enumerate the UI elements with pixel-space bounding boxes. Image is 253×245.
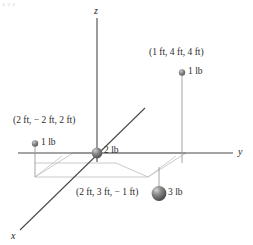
plane-helper-lines <box>35 156 176 177</box>
particle-1lb-upper-weight-label: 1 lb <box>188 67 203 77</box>
particle-1lb-upper-sphere <box>179 69 185 75</box>
particle-3lb-sphere <box>152 186 167 201</box>
z-axis-label: z <box>94 6 98 16</box>
three-dimensional-particle-diagram: a a a <box>0 0 253 245</box>
x-axis <box>20 108 145 230</box>
particle-2lb-sphere <box>92 148 103 159</box>
y-axis-label: y <box>238 147 242 157</box>
particle-1lb-left-coord-label: (2 ft, − 2 ft, 2 ft) <box>13 116 75 126</box>
particle-1lb-upper-coord-label: (1 ft, 4 ft, 4 ft) <box>149 48 204 58</box>
x-axis-label: x <box>11 231 15 241</box>
particle-3lb-weight-label: 3 lb <box>168 188 183 198</box>
particle-1lb-left-sphere <box>32 140 38 146</box>
particle-1lb-left-weight-label: 1 lb <box>41 138 56 148</box>
particle-2lb-weight-label: 2 lb <box>104 146 119 156</box>
particle-3lb-coord-label: (2 ft, 3 ft, − 1 ft) <box>76 188 138 198</box>
